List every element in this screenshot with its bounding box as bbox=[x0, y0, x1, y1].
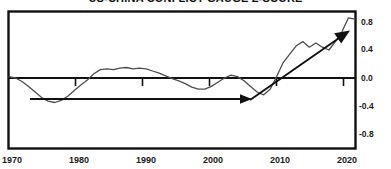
y-tick-4: -0.8 bbox=[359, 129, 374, 139]
y-tick-2: 0.0 bbox=[361, 73, 373, 83]
x-tick-2000: 2000 bbox=[203, 155, 223, 165]
chart-container: US-CHINA CONFLICT GAUGE Z-SCORE 0.8 bbox=[0, 0, 391, 169]
chart-plot-area: 0.8 0.4 0.0 -0.4 -0.8 1970 1980 1990 200… bbox=[0, 0, 391, 169]
y-tick-0: 0.8 bbox=[361, 17, 373, 27]
x-axis-labels: 1970 1980 1990 2000 2010 2020 bbox=[2, 155, 357, 165]
x-tick-1990: 1990 bbox=[136, 155, 156, 165]
x-tick-2010: 2010 bbox=[270, 155, 290, 165]
x-tick-1980: 1980 bbox=[69, 155, 89, 165]
plot-frame bbox=[9, 12, 356, 149]
y-tick-1: 0.4 bbox=[361, 44, 373, 54]
x-tick-2020: 2020 bbox=[337, 155, 357, 165]
y-tick-3: -0.4 bbox=[359, 101, 374, 111]
x-tick-1970: 1970 bbox=[2, 155, 22, 165]
y-axis-labels: 0.8 0.4 0.0 -0.4 -0.8 bbox=[359, 17, 374, 139]
